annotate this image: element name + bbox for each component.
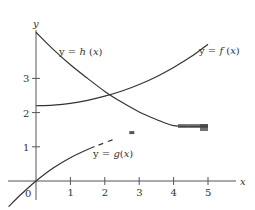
x-tick-group: 12345	[67, 177, 211, 198]
g-curve-dash-mark	[129, 131, 134, 134]
y-tick-label: 2	[23, 108, 29, 119]
x-tick-label: 3	[136, 187, 142, 198]
y-axis-label: y	[32, 18, 39, 29]
g-curve-label: y = g(x)	[92, 148, 133, 159]
f-curve-label: y = f (x)	[198, 45, 240, 56]
x-axis-label: x	[240, 176, 246, 187]
smudge-mark	[200, 124, 208, 131]
function-graph: 12345 123 x y 0 y = h (x) y = f (x) y = …	[0, 0, 255, 210]
y-tick-group: 123	[23, 73, 40, 152]
y-tick-label: 3	[23, 73, 29, 84]
x-tick-label: 2	[102, 187, 108, 198]
curve-group	[8, 32, 208, 206]
x-tick-label: 4	[171, 187, 177, 198]
y-tick-label: 1	[23, 142, 29, 153]
x-tick-label: 1	[67, 187, 73, 198]
h-curve-label: y = h (x)	[58, 46, 103, 57]
x-tick-label: 5	[205, 187, 211, 198]
